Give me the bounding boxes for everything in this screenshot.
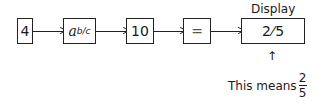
annotation-text: This means bbox=[228, 79, 297, 93]
arrow-1 bbox=[33, 31, 63, 32]
up-arrow-icon: ↑ bbox=[267, 49, 277, 63]
key-equals: = bbox=[183, 18, 211, 44]
key-fraction-exp: b/c bbox=[77, 26, 91, 36]
key-4-label: 4 bbox=[21, 23, 30, 39]
key-4: 4 bbox=[17, 18, 33, 44]
arrow-4 bbox=[211, 31, 241, 32]
key-fraction: ab/c bbox=[63, 18, 96, 44]
key-10: 10 bbox=[126, 18, 154, 44]
annotation-denominator: 5 bbox=[299, 87, 307, 99]
annotation-fraction: 2 5 bbox=[299, 72, 307, 99]
arrow-3 bbox=[154, 31, 183, 32]
display-separator: ⁄ bbox=[272, 23, 274, 39]
annotation-numerator: 2 bbox=[299, 72, 307, 84]
arrow-2 bbox=[96, 31, 126, 32]
display-screen: 2 ⁄ 5 bbox=[241, 18, 305, 44]
display-numerator: 2 bbox=[262, 23, 271, 39]
display-title: Display bbox=[251, 2, 295, 16]
display-denominator: 5 bbox=[275, 23, 284, 39]
annotation: This means 2 5 bbox=[228, 72, 307, 99]
key-equals-label: = bbox=[191, 23, 203, 39]
key-fraction-base: a bbox=[68, 23, 76, 39]
key-10-label: 10 bbox=[131, 23, 149, 39]
